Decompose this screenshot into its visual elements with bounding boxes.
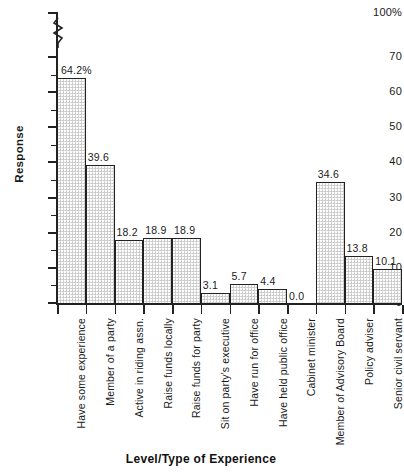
x-category-label-10: Policy adviser [364, 318, 375, 385]
bar-value-label-3: 18.9 [145, 225, 166, 236]
y-tick-minor-55 [51, 110, 56, 111]
y-tick-minor-65 [51, 75, 56, 76]
x-category-label-2: Active in riding assn. [134, 318, 145, 418]
x-tick-11 [373, 305, 375, 314]
y-tick-minor-15 [51, 250, 56, 251]
bar-value-label-0: 64.2% [61, 65, 92, 76]
bar-value-label-7: 4.4 [260, 276, 275, 287]
x-tick-8 [287, 305, 289, 314]
x-tick-10 [345, 305, 347, 314]
x-category-label-1: Member of a party [105, 318, 116, 406]
x-category-label-4: Raise funds for party [191, 318, 202, 418]
bar-value-label-4: 18.9 [174, 225, 195, 236]
y-tick-minor-25 [51, 215, 56, 216]
y-tick-70 [48, 56, 56, 58]
y-tick-0 [48, 302, 56, 304]
bar-value-label-5: 3.1 [203, 280, 218, 291]
bar-11 [373, 269, 402, 304]
x-tick-3 [143, 305, 145, 314]
y-tick-minor-5 [51, 285, 56, 286]
y-tick-50 [48, 126, 56, 128]
bar-value-label-9: 34.6 [318, 169, 339, 180]
y-axis-title: Response [13, 109, 25, 199]
x-tick-0 [57, 305, 59, 314]
y-tick-60 [48, 91, 56, 93]
x-category-label-9: Member of Advisory Board [335, 318, 346, 445]
bar-4 [172, 238, 201, 304]
bar-6 [230, 284, 259, 304]
bar-2 [115, 240, 144, 304]
x-axis-title: Level/Type of Experience [0, 452, 402, 466]
y-tick-20 [48, 232, 56, 234]
bar-3 [143, 238, 172, 304]
y-tick-100 [48, 12, 56, 14]
bar-1 [86, 165, 115, 304]
x-tick-9 [316, 305, 318, 314]
bar-value-label-2: 18.2 [117, 227, 138, 238]
y-tick-40 [48, 161, 56, 163]
x-category-label-0: Have some experience [76, 318, 87, 428]
bar-10 [345, 256, 374, 304]
x-tick-2 [115, 305, 117, 314]
x-tick-1 [86, 305, 88, 314]
x-tick-7 [258, 305, 260, 314]
y-tick-10 [48, 267, 56, 269]
bar-value-label-10: 13.8 [347, 243, 368, 254]
x-category-label-3: Raise funds locally [163, 318, 174, 408]
plot-area: 64.2%39.618.218.918.93.15.74.40.034.613.… [57, 12, 402, 304]
y-tick-30 [48, 197, 56, 199]
bar-0 [57, 78, 86, 304]
y-tick-minor-45 [51, 145, 56, 146]
x-category-label-7: Have held public office [278, 318, 289, 427]
bar-7 [258, 289, 287, 304]
bar-value-label-1: 39.6 [88, 152, 109, 163]
x-category-label-11: Senior civil servant [393, 318, 404, 409]
y-tick-minor-35 [51, 180, 56, 181]
x-tick-4 [172, 305, 174, 314]
bar-5 [201, 293, 230, 304]
x-category-label-6: Have run for office [249, 318, 260, 406]
x-tick-end [402, 305, 404, 314]
x-tick-5 [201, 305, 203, 314]
bar-value-label-11: 10.1 [375, 256, 396, 267]
x-tick-6 [230, 305, 232, 314]
bar-value-label-6: 5.7 [232, 271, 247, 282]
bar-9 [316, 182, 345, 304]
bar-value-label-8: 0.0 [289, 291, 304, 302]
x-category-label-8: Cabinet minister [306, 318, 317, 396]
x-category-label-5: Sit on party's executive [220, 318, 231, 429]
